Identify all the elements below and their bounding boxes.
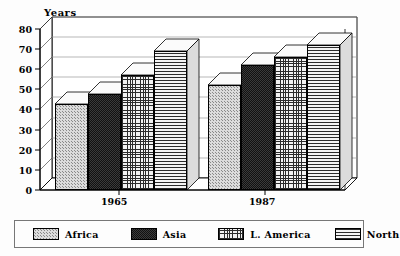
bar-1987-north	[307, 45, 340, 190]
legend-label-lamerica: L. America	[250, 229, 310, 240]
x-tick-1987: 1987	[249, 196, 275, 207]
y-tick-30: 30	[6, 125, 32, 136]
bar-1965-africa	[55, 104, 88, 190]
legend-swatch-africa-icon	[33, 228, 59, 240]
legend-item-asia[interactable]: Asia	[131, 228, 187, 240]
legend-item-north[interactable]: North	[335, 228, 400, 240]
bar-1965-asia	[88, 94, 121, 190]
bar-1987-africa	[208, 85, 241, 190]
legend-item-lamerica[interactable]: L. America	[218, 228, 310, 240]
bar-1965-lamerica	[121, 75, 154, 190]
legend-label-north: North	[367, 229, 400, 240]
legend-swatch-north-icon	[335, 228, 361, 240]
y-tick-0: 0	[6, 185, 32, 196]
legend-label-asia: Asia	[163, 229, 187, 240]
y-tick-60: 60	[6, 64, 32, 75]
y-tick-70: 70	[6, 44, 32, 55]
bar-1987-lamerica	[274, 57, 307, 190]
y-tick-10: 10	[6, 165, 32, 176]
legend: Africa Asia L. America North	[14, 220, 364, 248]
legend-swatch-asia-icon	[131, 228, 157, 240]
legend-label-africa: Africa	[65, 229, 99, 240]
y-tick-20: 20	[6, 145, 32, 156]
legend-swatch-lamerica-icon	[218, 228, 244, 240]
x-tick-1965: 1965	[101, 196, 127, 207]
legend-item-africa[interactable]: Africa	[33, 228, 99, 240]
bar-1965-north	[154, 51, 187, 190]
y-tick-40: 40	[6, 104, 32, 115]
y-tick-50: 50	[6, 84, 32, 95]
y-tick-80: 80	[6, 24, 32, 35]
bar-1987-asia	[241, 65, 274, 190]
